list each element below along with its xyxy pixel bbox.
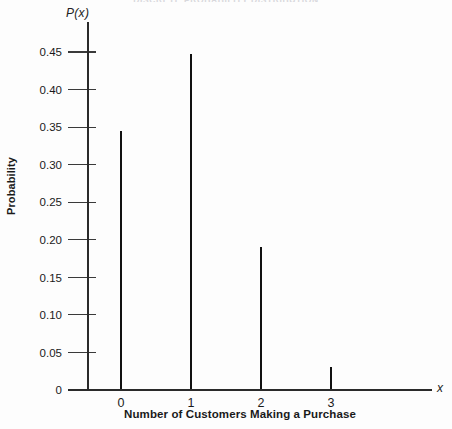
x-tick-label: 3 [328, 396, 335, 410]
x-tick-label: 2 [258, 396, 265, 410]
y-tick-label: 0.45 [40, 46, 62, 58]
x-tick-label: 1 [188, 396, 195, 410]
data-series-spikes [121, 54, 331, 390]
plot-area: 00.050.100.150.200.250.300.350.400.45 01… [0, 0, 452, 429]
y-tick-label: 0.25 [40, 196, 62, 208]
y-tick-label: 0.10 [40, 309, 62, 321]
y-tick-label: 0.15 [40, 272, 62, 284]
y-tick-label: 0.35 [40, 121, 62, 133]
chart-figure: DISCRETE PROBABILITY DISTRIBUTION P(x) P… [0, 0, 452, 429]
y-tick-label: 0.05 [40, 347, 62, 359]
y-tick-label: 0.20 [40, 234, 62, 246]
x-axis-ticks: 0123 [118, 382, 335, 410]
x-tick-label: 0 [118, 396, 125, 410]
y-tick-label: 0.30 [40, 159, 62, 171]
y-tick-label: 0 [56, 384, 62, 396]
y-tick-label: 0.40 [40, 84, 62, 96]
